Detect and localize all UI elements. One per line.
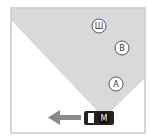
point-a: A — [109, 77, 123, 91]
car-label: M — [101, 114, 108, 123]
point-b: B — [115, 41, 129, 55]
point-sha-label: Ш — [95, 22, 104, 31]
point-b-label: B — [119, 44, 125, 53]
diagram-canvas: Ш B A M — [0, 0, 150, 138]
car-m: M — [84, 111, 114, 125]
point-a-label: A — [113, 80, 119, 89]
point-sha: Ш — [92, 19, 106, 33]
